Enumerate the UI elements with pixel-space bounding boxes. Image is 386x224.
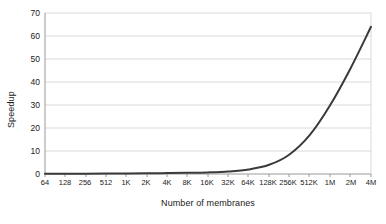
speedup-line-chart: Speedup 70 60 50 40 30 20 10 0 64 128 25…: [0, 0, 386, 224]
gridlines: [45, 13, 371, 151]
plot-area: [0, 0, 386, 224]
speedup-series-line: [45, 27, 371, 174]
axis-lines: [45, 13, 371, 174]
